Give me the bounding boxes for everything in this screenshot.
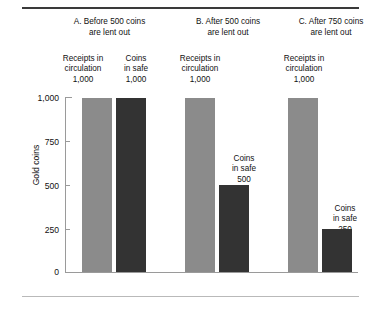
bottom-rule: [22, 296, 359, 297]
bar-a-receipts: [82, 98, 112, 272]
x-axis-baseline: [65, 272, 358, 273]
bar-a-coins-in-safe: [116, 98, 146, 272]
figure: A. Before 500 coins are lent out B. Afte…: [0, 0, 381, 312]
plot-area: [0, 0, 381, 272]
bar-b-coins-in-safe: [219, 185, 249, 272]
bar-c-receipts: [288, 98, 318, 272]
bar-b-receipts: [185, 98, 215, 272]
bar-c-coins-in-safe: [322, 229, 352, 273]
